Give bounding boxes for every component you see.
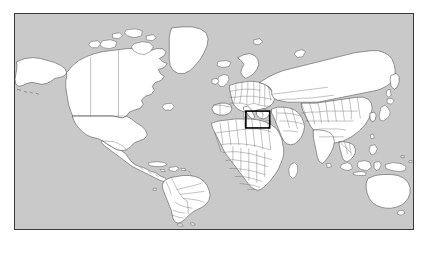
landmass-southeast-asia [339,142,355,162]
island-hispaniola [169,167,179,172]
island-newfoundland [162,103,174,110]
landmass-scandinavia [238,54,259,79]
landmass-united-states [73,116,148,151]
island-philippines [369,145,377,155]
map-frame [14,13,414,230]
island-sri-lanka [326,164,331,168]
island-svalbard [254,39,263,45]
island-tasmania [397,210,405,215]
landmass-greenland [169,27,208,74]
island-aleutians [17,89,39,94]
island-madagascar [289,163,298,179]
island-iceland [217,61,231,68]
island-java [353,172,366,176]
island-sulawesi [374,162,381,171]
island-sakhalin [386,89,391,97]
island-pacific-minor-2 [401,156,404,158]
landmass-africa [212,119,284,190]
continent-greenland [169,27,231,74]
island-novaya-zemlya [295,50,306,58]
landmass-central-east-asia [302,97,373,143]
landmass-russia-siberia [260,51,395,103]
island-great-britain [218,74,229,86]
island-hokkaido [387,98,394,104]
island-japan [379,105,390,121]
island-cuba [148,162,167,167]
island-borneo [357,161,371,171]
island-victoria [100,40,117,49]
island-new-guinea [385,163,406,172]
island-jamaica [160,170,165,172]
island-pacific-minor-1 [409,161,412,163]
landmass-korea [370,112,376,122]
landmass-south-america [162,175,210,223]
island-galapagos [153,188,156,190]
island-tierra-del-fuego [177,224,183,226]
continent-south-america [153,175,210,226]
world-map-graphic [15,14,413,229]
continent-north-america [15,29,193,182]
landmass-india [314,130,335,164]
landmass-australia [366,175,410,209]
island-sumatra [340,163,352,171]
landmass-canada [66,49,167,118]
island-banks [89,41,101,48]
world-map-figure [0,0,428,254]
landmass-kamchatka [390,73,399,89]
island-arctic-minor-2 [146,35,156,41]
island-taiwan [370,134,374,139]
island-ellesmere [124,29,142,38]
island-falklands [190,223,195,225]
island-arctic-minor-1 [113,33,123,39]
island-puerto-rico [181,169,186,171]
landmass-alaska [15,58,67,87]
